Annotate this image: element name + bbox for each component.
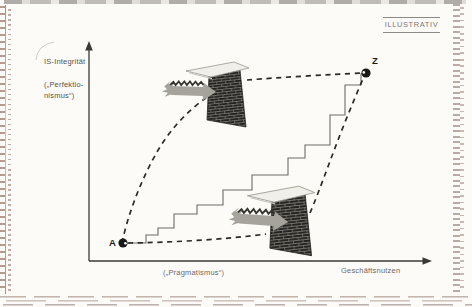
y-axis-arrowhead-icon: [85, 41, 93, 51]
point-a-label: A: [109, 237, 116, 248]
y-axis-title: IS-Integrität: [44, 57, 85, 66]
point-z-label: Z: [372, 55, 378, 66]
dashed-path-perfectionism-blocked: [247, 73, 362, 80]
x-axis-arrowhead-icon: [423, 257, 433, 265]
dashed-path-perfectionism-first: [122, 98, 206, 243]
x-axis-title: Geschäftsnutzen: [341, 266, 400, 275]
y-axis-note-line1: („Perfektio-: [44, 80, 84, 91]
diagram-canvas: [0, 0, 472, 307]
y-axis-note-line2: nismus“): [44, 91, 84, 102]
point-z-marker: [361, 68, 370, 77]
scanned-page: IS-Integrität („Perfektio- nismus“) A Z …: [0, 0, 472, 307]
y-axis-note: („Perfektio- nismus“): [44, 80, 84, 101]
point-a-marker: [118, 238, 127, 247]
x-axis-note: („Pragmatismus“): [163, 268, 224, 277]
illustrativ-tag: ILLUSTRATIV: [383, 17, 440, 33]
